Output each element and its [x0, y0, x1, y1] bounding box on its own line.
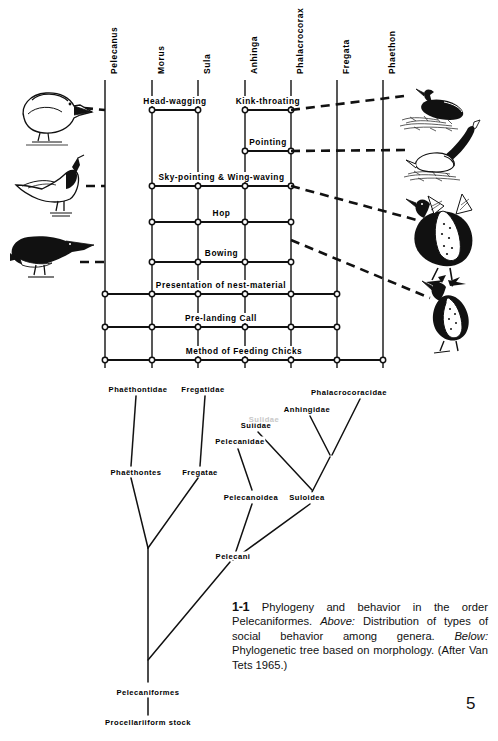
cormorant-on-nest-bird [400, 89, 463, 131]
anhinga-kink-throating-bird [404, 120, 480, 181]
cormorant-wing-waving-bird [406, 194, 472, 286]
figure-1-1: PelecanusMorusSulaAnhingaPhalacrocoraxFr… [0, 0, 498, 741]
pelican-head-wagging-bird [23, 93, 92, 145]
figure-number: 1-1 [232, 600, 249, 614]
caption-below-label: Below: [454, 630, 488, 642]
caption-text-3: Phylogenetic tree based on morphology. (… [232, 644, 488, 670]
cormorant-bowing-bird [10, 236, 94, 277]
booby-sky-pointing-bird [16, 155, 84, 216]
caption-above-label: Above: [320, 615, 355, 627]
figure-caption: 1-1 Phylogeny and behavior in the order … [232, 600, 488, 672]
frigatebird-pointing-bird [422, 275, 469, 353]
page-number: 5 [466, 694, 475, 714]
